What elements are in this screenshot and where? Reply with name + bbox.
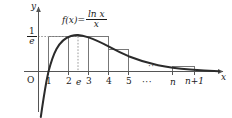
dashed-guides bbox=[38, 37, 78, 72]
y-tick-label-1-over-e: 1 e bbox=[26, 27, 38, 47]
x-tick-label-3: 3 bbox=[86, 77, 92, 86]
rect-4-5 bbox=[109, 50, 129, 72]
x-tick-label-n: n bbox=[170, 78, 176, 87]
x-tick-label-e: e bbox=[76, 78, 81, 87]
function-formula: f(x)= ln x x bbox=[62, 10, 108, 30]
formula-denominator: x bbox=[92, 20, 101, 29]
origin-label: O bbox=[27, 76, 34, 85]
y-axis-label: y bbox=[31, 2, 36, 11]
rect-1-2 bbox=[49, 37, 69, 72]
rectangles-ellipsis: ··· bbox=[148, 62, 158, 71]
figure-graph-lnx-over-x: f(x)= ln x x 1 e y x O 1 2 e 3 4 5 ··· n… bbox=[0, 0, 232, 118]
x-tick-label-n-plus-1: n+1 bbox=[185, 77, 204, 86]
x-axis-ticks bbox=[49, 72, 195, 76]
x-tick-label-5: 5 bbox=[126, 77, 132, 86]
x-axis-ellipsis: ··· bbox=[142, 78, 152, 87]
x-tick-label-2: 2 bbox=[66, 77, 72, 86]
x-tick-label-4: 4 bbox=[106, 77, 112, 86]
formula-fraction: ln x x bbox=[86, 10, 107, 30]
axes bbox=[24, 7, 223, 112]
y-tick-fraction: 1 e bbox=[27, 27, 37, 47]
y-tick-denominator: e bbox=[27, 37, 36, 46]
x-axis-label: x bbox=[221, 73, 226, 82]
formula-lhs: f(x)= bbox=[62, 15, 85, 25]
x-tick-label-1: 1 bbox=[46, 77, 52, 86]
graph-canvas bbox=[0, 0, 232, 118]
